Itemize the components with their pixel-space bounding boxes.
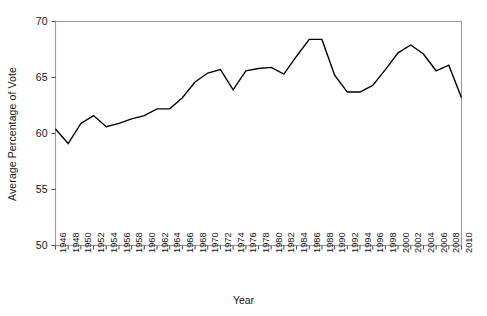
- y-tick-label: 50: [14, 240, 48, 251]
- plot-border: [56, 22, 462, 246]
- plot-frame: [56, 22, 462, 246]
- x-tick-label: 1984: [300, 232, 309, 253]
- x-tick-label: 1982: [287, 232, 296, 253]
- x-tick-label: 1992: [351, 232, 360, 253]
- x-tick-label: 1978: [262, 232, 271, 253]
- x-tick-label: 1970: [211, 232, 220, 253]
- x-tick-label: 1948: [72, 232, 81, 253]
- x-tick-label: 1962: [161, 232, 170, 253]
- x-tick-label: 2006: [440, 232, 449, 253]
- y-tick-label: 65: [14, 72, 48, 83]
- y-tick-label: 70: [14, 16, 48, 27]
- y-tick-label: 55: [14, 184, 48, 195]
- x-tick-label: 2002: [414, 232, 423, 253]
- x-tick-label: 1996: [376, 232, 385, 253]
- x-tick-label: 1990: [338, 232, 347, 253]
- x-tick-label: 1980: [275, 232, 284, 253]
- x-axis-label: Year: [0, 294, 487, 306]
- x-tick-label: 1972: [224, 232, 233, 253]
- x-tick-label: 1956: [123, 232, 132, 253]
- x-tick-label: 1976: [249, 232, 258, 253]
- x-tick-label: 2004: [427, 232, 436, 253]
- x-tick-label: 1950: [84, 232, 93, 253]
- x-tick-label: 1960: [148, 232, 157, 253]
- x-tick-label: 1994: [364, 232, 373, 253]
- y-tick-label: 60: [14, 128, 48, 139]
- x-tick-label: 1954: [110, 232, 119, 253]
- x-tick-label: 2010: [465, 232, 474, 253]
- x-tick-label: 1968: [199, 232, 208, 253]
- x-tick-label: 1974: [237, 232, 246, 253]
- x-tick-label: 1958: [135, 232, 144, 253]
- plot-area: [0, 0, 487, 316]
- x-tick-label: 1952: [97, 232, 106, 253]
- x-tick-label: 1986: [313, 232, 322, 253]
- x-tick-label: 1946: [59, 232, 68, 253]
- x-tick-label: 2000: [402, 232, 411, 253]
- x-tick-label: 1998: [389, 232, 398, 253]
- line-chart: Average Percentage of Vote Year 50556065…: [0, 0, 487, 316]
- x-tick-label: 1966: [186, 232, 195, 253]
- x-tick-label: 1964: [173, 232, 182, 253]
- x-tick-label: 1988: [326, 232, 335, 253]
- axis-ticks: [52, 22, 462, 250]
- data-series-line: [56, 39, 462, 143]
- x-tick-label: 2008: [452, 232, 461, 253]
